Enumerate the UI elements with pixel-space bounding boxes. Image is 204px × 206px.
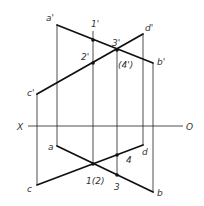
axis-label-x: X — [16, 122, 24, 132]
point-3-prime — [115, 48, 119, 52]
label-b-prime: b' — [157, 57, 165, 67]
label-c: c — [27, 184, 32, 194]
label-4-prime: (4') — [118, 60, 133, 70]
point-2-prime — [91, 61, 95, 65]
point-1-2 — [91, 162, 95, 166]
point-1-prime — [91, 38, 95, 42]
label-3: 3 — [114, 182, 120, 192]
axis-label-o: O — [186, 122, 193, 132]
label-b: b — [157, 188, 163, 198]
label-3-prime: 3' — [112, 38, 120, 48]
label-4: 4 — [126, 155, 132, 165]
label-1-prime: 1' — [91, 19, 99, 29]
line-a-prime-b-prime — [57, 25, 153, 63]
point-4 — [115, 153, 119, 157]
label-a: a — [48, 142, 54, 152]
label-a-prime: a' — [46, 13, 54, 23]
line-a-b — [57, 146, 153, 192]
label-c-prime: c' — [27, 88, 34, 98]
label-2-prime: 2' — [81, 52, 89, 62]
label-d-prime: d' — [145, 23, 153, 33]
point-3 — [115, 173, 119, 177]
projection-diagram: X O a' 1' d' 3' 2' (4') b' c' a d 4 1(2)… — [0, 0, 204, 206]
label-1-2: 1(2) — [86, 176, 104, 186]
label-d: d — [142, 147, 148, 157]
